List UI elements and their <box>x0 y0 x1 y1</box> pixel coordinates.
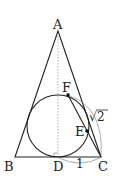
label-d: D <box>53 159 63 174</box>
label-b: B <box>4 159 14 174</box>
geometry-diagram: A B C D E F 1 √ 2 <box>0 0 128 183</box>
point-e <box>85 129 89 133</box>
label-c: C <box>98 159 108 174</box>
label-f: F <box>62 80 71 95</box>
label-a: A <box>52 17 63 32</box>
sqrt-symbol: √ <box>89 110 97 124</box>
label-e: E <box>75 124 85 139</box>
label-dc-length: 1 <box>76 157 84 171</box>
sqrt-radicand: 2 <box>97 110 105 124</box>
label-ec-length: √ 2 <box>89 110 108 124</box>
